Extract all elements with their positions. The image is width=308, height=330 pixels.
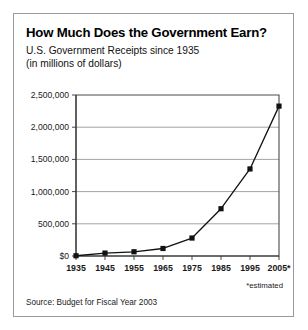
source-note: Source: Budget for Fiscal Year 2003 (26, 298, 157, 307)
x-axis-tick-label: 1975 (182, 263, 202, 273)
chart-figure: How Much Does the Government Earn? U.S. … (13, 13, 294, 317)
line-chart-svg: $0500,0001,000,0001,500,0002,000,0002,50… (14, 14, 294, 317)
data-point (102, 250, 107, 255)
data-point (189, 235, 194, 240)
y-axis-tick-label: 2,000,000 (31, 122, 69, 132)
x-axis-tick-label: 1985 (211, 263, 231, 273)
plot-border (76, 95, 279, 256)
data-point (218, 206, 223, 211)
x-axis-tick-label: 1935 (66, 263, 86, 273)
x-axis-tick-labels: 19351945195519651975198519952005* (66, 263, 291, 273)
plot-area: $0500,0001,000,0001,500,0002,000,0002,50… (14, 14, 294, 317)
y-axis-tick-label: 1,000,000 (31, 187, 69, 197)
x-axis-ticks (76, 256, 279, 260)
gridlines (72, 95, 279, 256)
y-axis-tick-label: 2,500,000 (31, 90, 69, 100)
y-axis-tick-label: 500,000 (38, 219, 69, 229)
data-line-receipts (76, 106, 279, 256)
x-axis-tick-label: 1965 (153, 263, 173, 273)
y-axis-tick-label: 1,500,000 (31, 154, 69, 164)
y-axis-tick-labels: $0500,0001,000,0001,500,0002,000,0002,50… (31, 90, 69, 261)
data-point-markers (73, 104, 281, 259)
y-axis-tick-label: $0 (59, 251, 69, 261)
data-point (73, 253, 78, 258)
data-point (131, 249, 136, 254)
x-axis-tick-label: 1995 (240, 263, 260, 273)
x-axis-tick-label: 1955 (124, 263, 144, 273)
data-point (276, 104, 281, 109)
x-axis-tick-label: 2005* (268, 263, 292, 273)
plot-frame (76, 95, 279, 256)
data-point (160, 246, 165, 251)
data-point (247, 166, 252, 171)
x-axis-tick-label: 1945 (95, 263, 115, 273)
estimated-footnote: *estimated (246, 281, 283, 290)
